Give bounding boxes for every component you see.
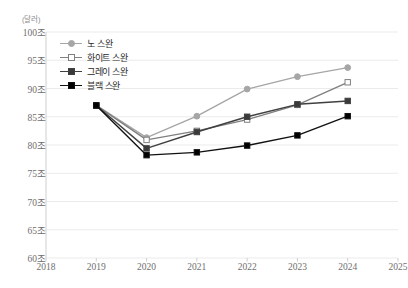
x-axis-tick-label: 2019 — [87, 262, 106, 272]
data-point — [94, 103, 99, 108]
legend-item-2[interactable]: 그레이 스완 — [60, 64, 128, 78]
y-axis-tick-label: 75조 — [2, 166, 46, 180]
data-point — [194, 113, 200, 119]
legend-marker-icon — [60, 51, 82, 63]
y-axis-tick-label: 70조 — [2, 195, 46, 209]
x-axis-tick-label: 2021 — [187, 262, 206, 272]
legend-item-3[interactable]: 블랙 스완 — [60, 78, 128, 92]
data-point — [345, 98, 350, 103]
legend-marker-icon — [60, 65, 82, 77]
y-axis-tick-label: 65조 — [2, 223, 46, 237]
x-axis-tick-label: 2018 — [37, 262, 56, 272]
data-point — [244, 143, 249, 148]
series-line-0 — [96, 68, 347, 138]
data-point — [345, 113, 350, 118]
legend-item-label: 블랙 스완 — [87, 79, 120, 92]
legend-item-0[interactable]: 노 스완 — [60, 36, 128, 50]
data-point — [295, 74, 301, 80]
x-axis-tick-label: 2024 — [338, 262, 357, 272]
y-axis-tick-labels: 60조65조70조75조80조85조90조95조100조 — [0, 0, 46, 288]
data-point — [144, 152, 149, 157]
legend-item-label: 노 스완 — [87, 37, 112, 50]
data-point — [144, 146, 149, 151]
data-point — [194, 129, 199, 134]
x-axis-tick-label: 2023 — [288, 262, 307, 272]
data-point — [345, 65, 351, 71]
legend-marker-icon — [60, 37, 82, 49]
data-point — [194, 150, 199, 155]
legend-item-label: 그레이 스완 — [87, 65, 128, 78]
y-axis-tick-label: 90조 — [2, 82, 46, 96]
data-point — [295, 102, 300, 107]
x-axis-tick-label: 2022 — [238, 262, 257, 272]
data-point — [295, 133, 300, 138]
y-axis-tick-label: 95조 — [2, 53, 46, 67]
data-point — [345, 80, 350, 85]
data-point — [244, 86, 250, 92]
chart-legend: 노 스완화이트 스완그레이 스완블랙 스완 — [60, 36, 128, 92]
series-line-2 — [96, 101, 347, 148]
legend-item-1[interactable]: 화이트 스완 — [60, 50, 128, 64]
y-axis-tick-label: 80조 — [2, 138, 46, 152]
legend-marker-icon — [60, 79, 82, 91]
data-point — [244, 114, 249, 119]
legend-item-label: 화이트 스완 — [87, 51, 128, 64]
y-axis-tick-label: 100조 — [2, 25, 46, 39]
x-axis-tick-label: 2025 — [389, 262, 408, 272]
x-axis-tick-label: 2020 — [137, 262, 156, 272]
y-axis-tick-label: 85조 — [2, 110, 46, 124]
data-point — [144, 137, 149, 142]
